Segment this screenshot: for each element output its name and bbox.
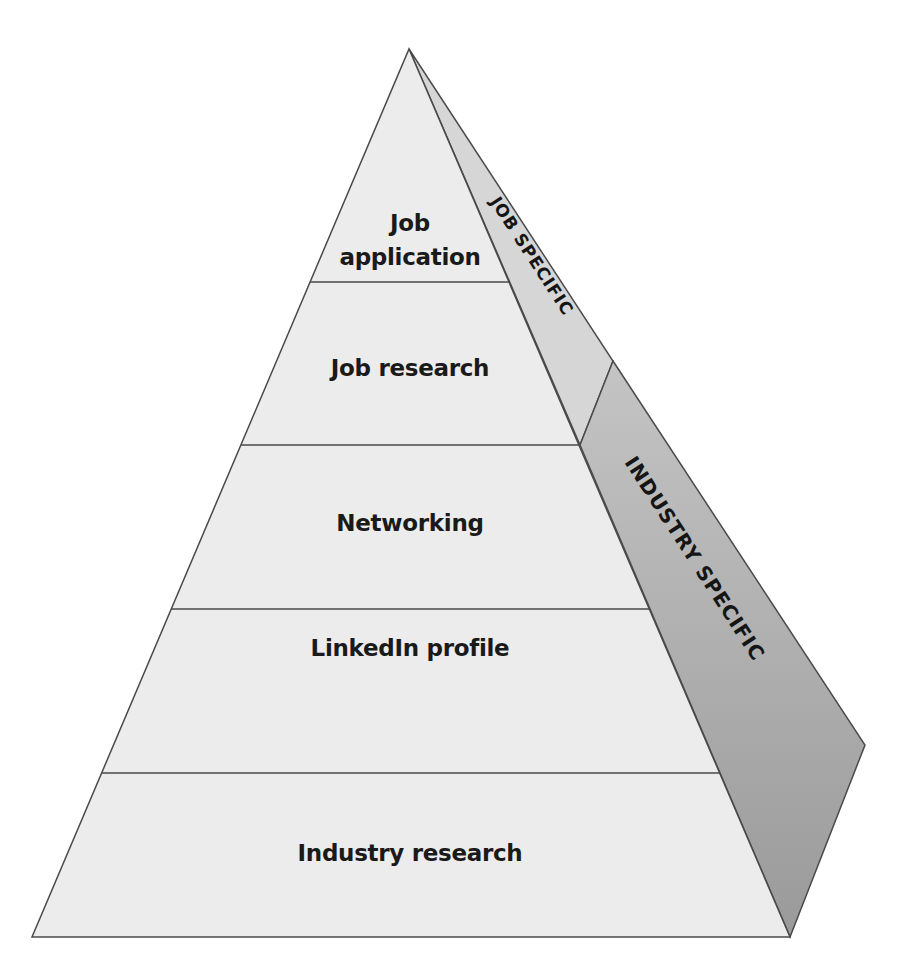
level-job-application: Job application [339,206,480,274]
level-industry-research: Industry research [298,836,523,870]
pyramid-diagram [0,0,898,975]
level-linkedin-profile: LinkedIn profile [311,631,510,665]
level-job-application-line2: application [339,240,480,274]
level-job-application-line1: Job [339,206,480,240]
level-job-research: Job research [331,351,489,385]
level-networking: Networking [336,506,483,540]
